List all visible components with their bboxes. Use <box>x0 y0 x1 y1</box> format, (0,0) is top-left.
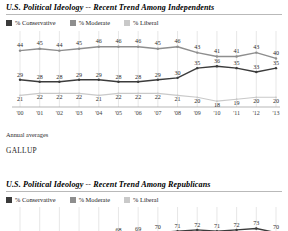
data-point-conservative <box>58 81 60 83</box>
x-tick-label: '10 <box>213 110 220 116</box>
x-tick-label: '00 <box>16 110 23 116</box>
data-point-conservative <box>255 227 257 229</box>
data-label-moderate: 45 <box>76 40 82 46</box>
data-point-conservative <box>255 71 257 73</box>
data-point-conservative <box>137 81 139 83</box>
data-point-conservative <box>98 79 100 81</box>
plot-area-independents: 4445444546464645464341414340292828292928… <box>6 27 282 127</box>
x-tick-label: '02 <box>56 110 63 116</box>
data-point-moderate <box>196 51 198 53</box>
data-label-conservative: 28 <box>135 74 141 80</box>
legend-swatch-liberal-rep <box>124 197 130 203</box>
data-point-moderate <box>137 46 139 48</box>
data-point-conservative <box>117 81 119 83</box>
legend-label-moderate-rep: % Moderate <box>79 196 110 203</box>
data-point-conservative <box>196 67 198 69</box>
data-label-liberal: 18 <box>214 102 220 108</box>
data-point-moderate <box>176 46 178 48</box>
gallup-ideology-report: U.S. Political Ideology -- Recent Trend … <box>0 0 288 231</box>
data-label-conservative: 30 <box>174 70 180 76</box>
x-tick-label: '05 <box>115 110 122 116</box>
data-point-moderate <box>117 46 119 48</box>
x-tick-label: '08 <box>174 110 181 116</box>
data-label-moderate: 46 <box>135 38 141 44</box>
legend-label-conservative-rep: % Conservative <box>15 196 56 203</box>
data-label-liberal: 22 <box>56 94 62 100</box>
data-label-conservative: 73 <box>253 220 259 226</box>
data-label-liberal: 20 <box>194 98 200 104</box>
data-label-conservative: 29 <box>76 72 82 78</box>
data-label-conservative: 69 <box>135 226 141 231</box>
data-label-liberal: 22 <box>135 94 141 100</box>
data-label-moderate: 44 <box>17 42 23 48</box>
data-point-conservative <box>176 230 178 231</box>
x-tick-label: '06 <box>135 110 142 116</box>
data-label-liberal: 21 <box>96 96 102 102</box>
data-label-conservative: 71 <box>174 223 180 229</box>
data-label-conservative: 36 <box>214 58 220 64</box>
data-point-moderate <box>157 48 159 50</box>
legend-republicans: % Conservative % Moderate % Liberal <box>6 196 282 203</box>
data-label-conservative: 33 <box>253 64 259 70</box>
data-label-liberal: 19 <box>234 100 240 106</box>
data-label-liberal: 21 <box>174 96 180 102</box>
legend-item-liberal-rep: % Liberal <box>124 196 158 203</box>
data-point-moderate <box>19 49 21 51</box>
title-divider <box>6 14 282 15</box>
data-point-conservative <box>78 79 80 81</box>
legend-independents: % Conservative % Moderate % Liberal <box>6 19 282 26</box>
legend-label-liberal: % Liberal <box>133 19 158 26</box>
data-label-conservative: 29 <box>155 72 161 78</box>
data-label-conservative: 66 <box>96 230 102 231</box>
data-label-conservative: 72 <box>234 222 240 228</box>
data-label-conservative: 35 <box>273 60 279 66</box>
line-chart-svg-independents: 4445444546464645464341414340292828292928… <box>6 27 282 127</box>
data-label-conservative: 29 <box>96 72 102 78</box>
data-label-conservative: 28 <box>56 74 62 80</box>
legend-label-conservative: % Conservative <box>15 19 56 26</box>
data-point-conservative <box>275 67 277 69</box>
data-label-conservative: 29 <box>17 72 23 78</box>
data-point-conservative <box>196 229 198 231</box>
data-label-moderate: 44 <box>56 42 62 48</box>
data-point-conservative <box>235 229 237 231</box>
data-label-liberal: 22 <box>115 94 121 100</box>
data-point-conservative <box>216 65 218 67</box>
data-label-conservative: 35 <box>234 60 240 66</box>
data-point-moderate <box>235 55 237 57</box>
title-divider-republicans <box>6 191 282 192</box>
legend-label-moderate: % Moderate <box>79 19 110 26</box>
data-point-conservative <box>216 230 218 231</box>
data-point-conservative <box>19 79 21 81</box>
data-label-conservative: 28 <box>115 74 121 80</box>
source-logo-independents: GALLUP <box>6 146 282 155</box>
data-point-moderate <box>98 46 100 48</box>
x-tick-label: '01 <box>36 110 43 116</box>
data-label-liberal: 22 <box>37 94 43 100</box>
data-label-conservative: 70 <box>155 224 161 230</box>
data-point-moderate <box>38 48 40 50</box>
data-label-moderate: 45 <box>155 40 161 46</box>
legend-swatch-conservative-rep <box>6 197 12 203</box>
data-label-moderate: 43 <box>253 44 259 50</box>
plot-area-republicans: 6263646566686970717271727370 <box>6 205 282 231</box>
legend-item-conservative: % Conservative <box>6 19 56 26</box>
x-tick-label: '11 <box>233 110 240 116</box>
data-label-liberal: 22 <box>76 94 82 100</box>
legend-item-conservative-rep: % Conservative <box>6 196 56 203</box>
data-label-conservative: 72 <box>194 222 200 228</box>
data-label-moderate: 45 <box>37 40 43 46</box>
legend-label-liberal-rep: % Liberal <box>133 196 158 203</box>
legend-swatch-conservative <box>6 20 12 26</box>
data-point-moderate <box>58 49 60 51</box>
legend-item-moderate: % Moderate <box>70 19 110 26</box>
x-tick-label: '04 <box>95 110 102 116</box>
data-label-moderate: 41 <box>214 48 220 54</box>
chart-title-independents: U.S. Political Ideology -- Recent Trend … <box>6 3 282 12</box>
data-label-conservative: 71 <box>214 223 220 229</box>
legend-item-liberal: % Liberal <box>124 19 158 26</box>
chart-title-republicans: U.S. Political Ideology -- Recent Trend … <box>6 180 282 189</box>
data-label-liberal: 21 <box>17 96 23 102</box>
x-tick-label: '13 <box>272 110 279 116</box>
data-label-liberal: 22 <box>155 94 161 100</box>
